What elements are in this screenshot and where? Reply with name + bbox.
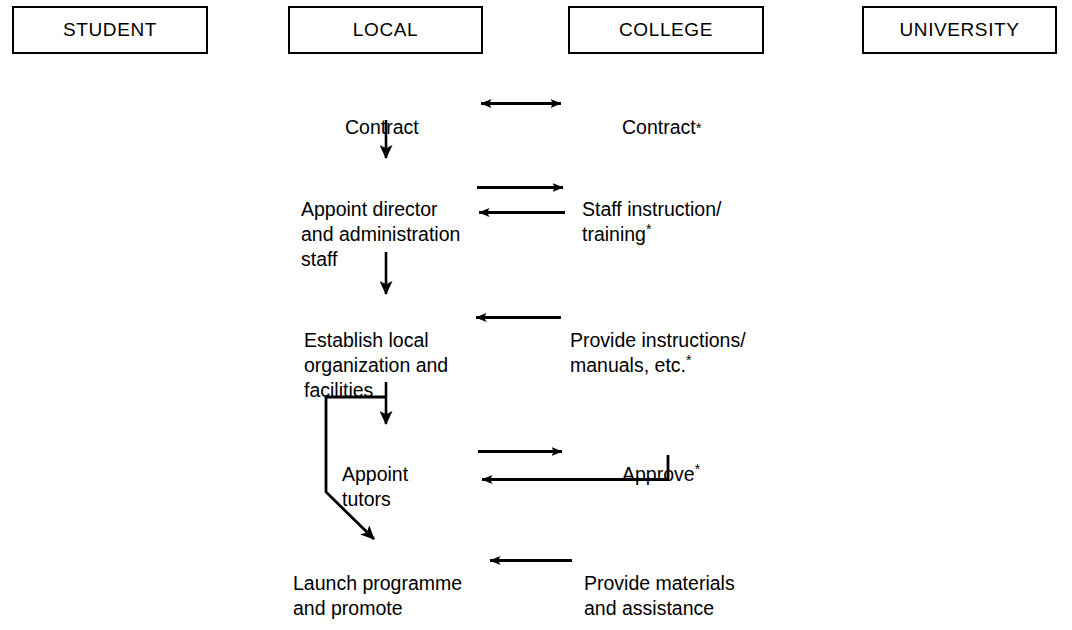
node-college-contract-label: Contract (622, 116, 696, 138)
node-college-approve-label: Approve (622, 463, 695, 485)
node-local-appoint-director: Appoint director and administration staf… (301, 172, 460, 272)
footnote-asterisk-training: * (646, 221, 651, 237)
column-header-student-label: STUDENT (63, 19, 157, 41)
node-college-provide-instructions-label: Provide instructions/ manuals, etc. (570, 329, 746, 376)
column-header-university: UNIVERSITY (862, 6, 1057, 54)
connector-layer (0, 0, 1072, 630)
column-header-college: COLLEGE (568, 6, 764, 54)
flowchart-canvas: STUDENT LOCAL COLLEGE UNIVERSITY Contrac… (0, 0, 1072, 630)
column-header-local-label: LOCAL (353, 19, 418, 41)
node-college-contract: Contract* (622, 90, 702, 141)
node-local-launch-programme-label: Launch programme and promote (293, 572, 462, 619)
node-college-staff-instruction-label: Staff instruction/ training (582, 198, 721, 245)
node-local-establish-organization-label: Establish local organization and facilit… (304, 329, 448, 401)
column-header-college-label: COLLEGE (619, 19, 713, 41)
node-local-launch-programme: Launch programme and promote (293, 546, 462, 621)
column-header-student: STUDENT (12, 6, 208, 54)
column-header-local: LOCAL (288, 6, 483, 54)
node-local-contract: Contract (345, 90, 419, 140)
node-local-contract-label: Contract (345, 116, 419, 138)
footnote-asterisk-manuals: * (686, 352, 691, 368)
node-local-appoint-director-label: Appoint director and administration staf… (301, 198, 460, 270)
node-college-provide-materials-label: Provide materials and assistance (584, 572, 735, 619)
node-local-establish-organization: Establish local organization and facilit… (304, 303, 448, 403)
node-local-appoint-tutors: Appoint tutors (342, 437, 408, 512)
node-college-provide-instructions: Provide instructions/ manuals, etc.* (570, 303, 746, 378)
node-college-staff-instruction: Staff instruction/ training* (582, 172, 721, 247)
node-local-appoint-tutors-label: Appoint tutors (342, 463, 408, 510)
node-college-provide-materials: Provide materials and assistance (584, 546, 735, 621)
node-college-approve: Approve* (622, 437, 700, 487)
column-header-university-label: UNIVERSITY (899, 19, 1019, 41)
footnote-asterisk-contract: * (696, 119, 702, 136)
footnote-asterisk-approve: * (695, 461, 700, 477)
